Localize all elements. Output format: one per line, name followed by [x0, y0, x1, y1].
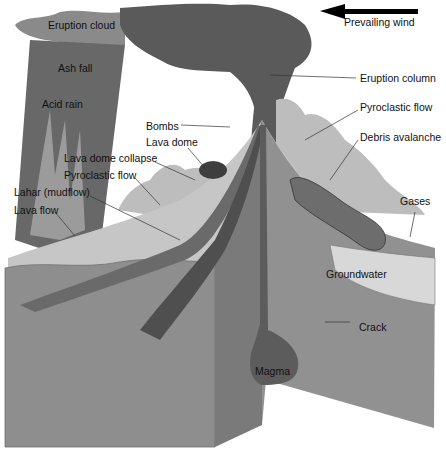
label-magma: Magma: [255, 365, 290, 377]
label-gases: Gases: [400, 195, 430, 207]
label-ash-fall: Ash fall: [58, 62, 92, 74]
lava-dome-shape: [199, 161, 227, 179]
label-lava-dome-collapse: Lava dome collapse: [64, 152, 157, 164]
label-bombs: Bombs: [146, 120, 179, 132]
label-pyroclastic-flow-right: Pyroclastic flow: [360, 101, 432, 113]
label-pyroclastic-flow-left: Pyroclastic flow: [64, 169, 136, 181]
label-eruption-cloud: Eruption cloud: [48, 19, 115, 31]
label-acid-rain: Acid rain: [42, 98, 83, 110]
label-debris-avalanche: Debris avalanche: [360, 131, 441, 143]
label-lava-dome: Lava dome: [146, 136, 198, 148]
label-wind: Prevailing wind: [344, 16, 415, 28]
label-lahar: Lahar (mudflow): [14, 186, 90, 198]
label-lava-flow: Lava flow: [14, 204, 58, 216]
label-groundwater: Groundwater: [326, 268, 387, 280]
label-eruption-column: Eruption column: [360, 72, 436, 84]
label-crack: Crack: [359, 321, 386, 333]
